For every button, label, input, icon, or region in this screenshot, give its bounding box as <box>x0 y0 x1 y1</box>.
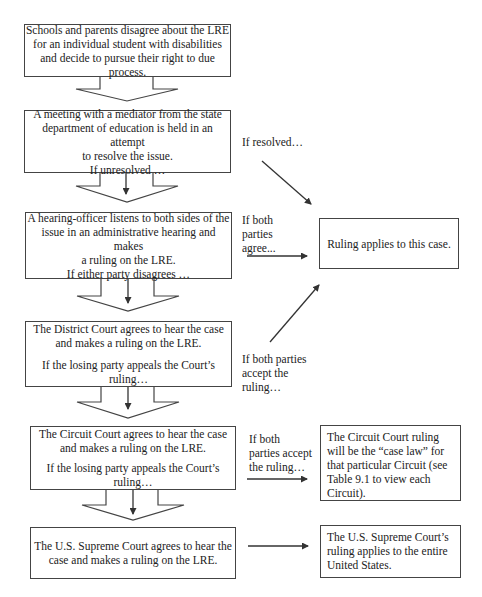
label-line: parties accept <box>249 446 312 460</box>
label-line: the ruling… <box>249 460 312 474</box>
outcome-circuit-line: Circuit). <box>327 486 454 500</box>
label-line: If both parties <box>242 352 307 366</box>
outcome-supreme-line: ruling applies to the entire <box>327 544 454 558</box>
step-circuit-line: If the losing party appeals the Court’s … <box>31 461 235 489</box>
step-dispute: Schools and parents disagree about the L… <box>24 24 231 77</box>
big-arrow-1 <box>76 76 178 101</box>
step-district-line: The District Court agrees to hear the ca… <box>26 322 231 336</box>
step-hearing: A hearing-officer listens to both sides … <box>25 212 232 279</box>
step-supreme-court: The U.S. Supreme Court agrees to hear th… <box>30 527 236 579</box>
label-line: parties <box>242 227 276 241</box>
label-if-both-agree: If both parties agree... <box>242 213 276 255</box>
outcome-supreme-line: United States. <box>327 558 454 572</box>
step-district-line: and makes a ruling on the LRE. <box>26 336 231 350</box>
label-line: ruling… <box>242 380 307 394</box>
label-if-resolved-text: If resolved… <box>242 136 303 148</box>
step-district-line: If the losing party appeals the Court’s … <box>26 358 231 386</box>
connector-layer <box>0 0 482 597</box>
step-circuit-line: and makes a ruling on the LRE. <box>31 441 235 455</box>
label-if-resolved: If resolved… <box>242 135 303 149</box>
step-mediation: A meeting with a mediator from the state… <box>24 110 231 173</box>
step-mediation-line: to resolve the issue. <box>25 149 230 163</box>
outcome-circuit-line: will be the “case law” for <box>327 444 454 458</box>
outcome-supreme-national: The U.S. Supreme Court’s ruling applies … <box>320 525 461 578</box>
big-arrow-2 <box>76 172 178 202</box>
step-hearing-line: a ruling on the LRE. <box>26 253 231 267</box>
outcome-circuit-line: The Circuit Court ruling <box>327 430 454 444</box>
label-if-both-accept-circuit: If both parties accept the ruling… <box>249 432 312 474</box>
step-supreme-line: The U.S. Supreme Court agrees to hear th… <box>31 539 235 553</box>
outcome-circuit-line: Table 9.1 to view each <box>327 472 454 486</box>
step-circuit-court: The Circuit Court agrees to hear the cas… <box>30 426 236 490</box>
label-if-both-accept-district: If both parties accept the ruling… <box>242 352 307 394</box>
outcome-this-case-text: Ruling applies to this case. <box>327 237 451 251</box>
step-dispute-line: for an individual student with disabilit… <box>25 37 230 51</box>
outcome-circuit-line: that particular Circuit (see <box>327 458 454 472</box>
step-hearing-line: A hearing-officer listens to both sides … <box>26 211 231 225</box>
step-mediation-line: A meeting with a mediator from the state <box>25 107 230 121</box>
step-hearing-line: issue in an administrative hearing and m… <box>26 225 231 253</box>
step-supreme-line: case and makes a ruling on the LRE. <box>31 553 235 567</box>
step-dispute-line: Schools and parents disagree about the L… <box>25 23 230 37</box>
step-dispute-line: and decide to pursue their right to due … <box>25 51 230 79</box>
label-line: accept the <box>242 366 307 380</box>
step-circuit-line: The Circuit Court agrees to hear the cas… <box>31 427 235 441</box>
label-line: If both <box>249 432 312 446</box>
step-hearing-line: If either party disagrees … <box>26 267 231 281</box>
step-district-court: The District Court agrees to hear the ca… <box>25 321 232 387</box>
label-line: If both <box>242 213 276 227</box>
step-mediation-line: If unresolved … <box>25 163 230 177</box>
outcome-this-case: Ruling applies to this case. <box>319 218 459 269</box>
step-mediation-line: department of education is held in an at… <box>25 121 230 149</box>
outcome-supreme-line: The U.S. Supreme Court’s <box>327 530 454 544</box>
outcome-circuit-case-law: The Circuit Court ruling will be the “ca… <box>320 425 461 501</box>
label-line: agree... <box>242 241 276 255</box>
